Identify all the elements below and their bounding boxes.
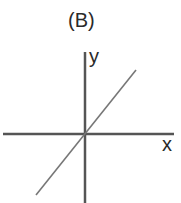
x-axis-label: x [162,134,172,154]
axes-plot [0,0,181,203]
figure-b: (B) y x [0,0,181,203]
y-axis-label: y [89,46,99,66]
